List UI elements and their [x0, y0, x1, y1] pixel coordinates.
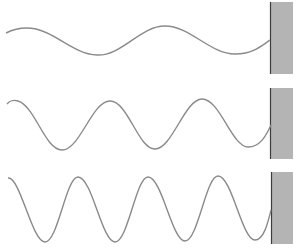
wall-1-block [270, 2, 293, 74]
wave-3-string [8, 176, 271, 242]
wall-3 [271, 172, 293, 244]
wall-2-block [270, 88, 293, 159]
standing-waves-diagram [0, 0, 298, 249]
wave-2-string [7, 99, 271, 150]
wall-1 [270, 2, 293, 74]
wave-1-string [6, 26, 270, 55]
wall-3-block [271, 172, 293, 244]
wall-2 [270, 88, 293, 159]
